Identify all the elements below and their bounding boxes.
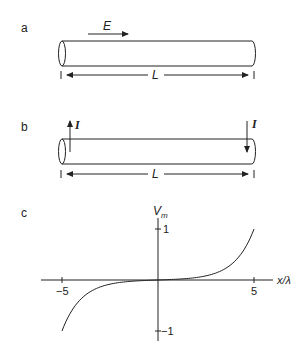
panel-b: b I I L [21, 117, 258, 181]
cylinder-a [59, 41, 256, 66]
cylinder-b [59, 139, 256, 164]
figure-canvas: a E L b I [0, 0, 307, 353]
current-left-label: I [74, 118, 81, 132]
y-axis-label: Vm [153, 204, 168, 220]
length-label-b: L [152, 167, 159, 181]
length-label-a: L [152, 68, 159, 82]
panel-label-a: a [21, 21, 28, 35]
panel-a: a E L [21, 19, 255, 82]
y-tick-1: 1 [163, 223, 169, 235]
field-label: E [103, 19, 112, 33]
panel-c: c −5 5 1 −1 Vm x/λ [21, 204, 291, 341]
panel-label-c: c [21, 206, 27, 220]
x-tick-minus5: −5 [56, 285, 69, 297]
x-axis-label: x/λ [276, 274, 291, 286]
panel-label-b: b [21, 120, 28, 134]
x-tick-5: 5 [251, 285, 257, 297]
y-tick-minus1: −1 [161, 325, 174, 337]
current-right-label: I [251, 117, 258, 131]
